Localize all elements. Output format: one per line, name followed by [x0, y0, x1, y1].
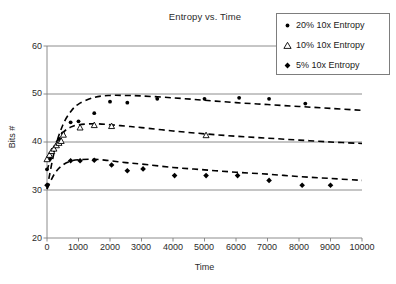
data-point [77, 125, 83, 131]
data-point [155, 97, 159, 101]
data-point [77, 158, 83, 164]
data-point [140, 166, 146, 172]
data-point [303, 102, 307, 106]
data-point [77, 119, 81, 123]
data-point [108, 100, 112, 104]
legend-label-5pct: 5% 10x Entropy [296, 60, 360, 71]
data-point [172, 173, 178, 179]
data-point [125, 101, 129, 105]
data-point [109, 162, 115, 168]
data-point [69, 120, 73, 124]
legend-item-20pct: 20% 10x Entropy [282, 15, 388, 35]
filled-diamond-icon [282, 60, 293, 71]
legend-label-20pct: 20% 10x Entropy [296, 20, 365, 31]
data-point [328, 182, 334, 188]
data-point [92, 111, 96, 115]
data-point [267, 97, 271, 101]
entropy-vs-time-chart: Entropy vs. Time Bits # Time 60 50 40 30… [0, 0, 396, 284]
data-point [91, 157, 97, 163]
open-triangle-icon [282, 40, 293, 51]
data-point [235, 173, 241, 179]
data-point [237, 96, 241, 100]
data-point [266, 178, 272, 184]
data-point [125, 168, 131, 174]
data-point [45, 167, 49, 171]
axis-lines [44, 46, 363, 242]
legend-label-10pct: 10% 10x Entropy [296, 40, 365, 51]
data-point [299, 182, 305, 188]
filled-circle-icon [282, 20, 293, 31]
chart-legend: 20% 10x Entropy 10% 10x Entropy 5% 10x E… [276, 13, 390, 75]
data-point [203, 173, 209, 179]
data-point [91, 122, 97, 128]
data-point [203, 97, 207, 101]
legend-item-10pct: 10% 10x Entropy [282, 35, 388, 55]
data-point [44, 182, 50, 188]
legend-item-5pct: 5% 10x Entropy [282, 55, 388, 75]
